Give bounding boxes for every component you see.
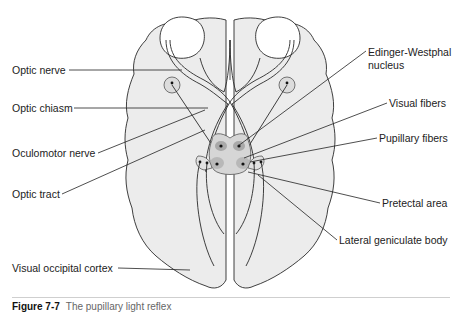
label-optic-nerve: Optic nerve [12,64,66,76]
label-edinger-westphal-line2: nucleus [368,59,404,71]
label-edinger-westphal: Edinger-Westphal [368,46,451,58]
label-visual-fibers: Visual fibers [389,97,446,109]
caption-divider [12,297,450,298]
left-eye [160,17,204,58]
label-optic-tract: Optic tract [12,188,60,200]
caption-text: The pupillary light reflex [66,301,172,312]
label-visual-occipital-cortex: Visual occipital cortex [12,262,113,274]
label-lateral-geniculate-body: Lateral geniculate body [339,234,448,246]
figure-caption: Figure 7-7The pupillary light reflex [12,301,171,313]
label-pretectal-area: Pretectal area [382,197,447,209]
label-optic-chiasm: Optic chiasm [12,102,73,114]
label-oculomotor-nerve: Oculomotor nerve [12,147,95,159]
caption-number: Figure 7-7 [12,301,60,312]
label-pupillary-fibers: Pupillary fibers [379,132,448,144]
right-eye [256,17,300,58]
